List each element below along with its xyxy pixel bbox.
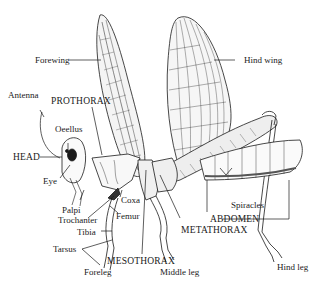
label-forewing: Forewing [35,55,70,65]
label-head: HEAD [13,152,40,162]
label-abdomen: ABDOMEN [210,214,259,224]
label-hind-wing: Hind wing [244,55,282,65]
label-hind-leg: Hind leg [277,262,308,272]
label-femur: Femur [116,211,140,221]
label-middle-leg: Middle leg [160,267,199,277]
label-tarsus: Tarsus [53,244,76,254]
label-antenna: Antenna [8,90,39,100]
head-drawing [62,138,86,206]
middle-leg-drawing [150,196,174,262]
label-tibia: Tibia [77,227,96,237]
insect-anatomy-diagram: Forewing Hind wing Antenna PROTHORAX Oee… [0,0,323,285]
label-spiracles: Spiracles [231,200,264,210]
label-oeellus: Oeellus [55,124,83,134]
label-prothorax: PROTHORAX [51,96,111,106]
label-metathorax: METATHORAX [181,225,248,235]
label-trochanter: Trochanter [58,215,97,225]
label-palpi: Palpi [62,205,81,215]
prothorax-drawing [92,154,140,190]
label-coxa: Coxa [121,195,140,205]
label-mesothorax: MESOTHORAX [107,256,175,266]
label-foreleg: Foreleg [84,267,112,277]
label-eye: Eye [43,176,57,186]
antenna-drawing [40,112,60,158]
grasshopper-illustration [0,0,323,285]
